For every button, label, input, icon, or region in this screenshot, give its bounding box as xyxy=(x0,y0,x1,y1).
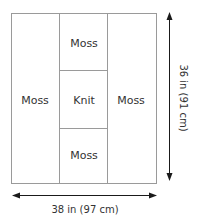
height-arrow-icon xyxy=(167,12,173,181)
dimension-arrows xyxy=(0,0,197,222)
width-dimension-label: 38 in (97 cm) xyxy=(51,204,118,215)
height-dimension-label: 36 in (91 cm) xyxy=(178,64,189,131)
width-arrow-icon xyxy=(12,193,157,199)
